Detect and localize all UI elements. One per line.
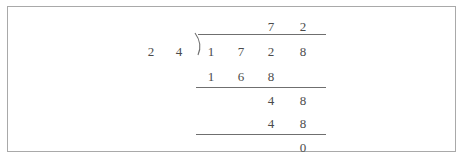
dividend-digit-4: 8 [296, 45, 310, 59]
vinculum-rule [198, 34, 326, 35]
dividend-digit-3: 2 [264, 45, 278, 59]
subtrahend1-digit-3: 8 [264, 70, 278, 84]
subtrahend2-digit-1: 4 [264, 117, 278, 131]
subtraction-rule-2 [196, 134, 326, 135]
figure-border: 2 4 7 2 1 7 2 8 1 6 8 4 8 4 8 0 [7, 6, 456, 152]
remainder1-digit-2: 8 [296, 94, 310, 108]
quotient-digit-1: 7 [264, 20, 278, 34]
dividend-digit-1: 1 [204, 45, 218, 59]
divisor-digit-2: 4 [172, 45, 186, 59]
subtrahend1-digit-2: 6 [234, 70, 248, 84]
subtraction-rule-1 [196, 87, 326, 88]
subtrahend1-digit-1: 1 [204, 70, 218, 84]
divisor-digit-1: 2 [144, 45, 158, 59]
subtrahend2-digit-2: 8 [296, 117, 310, 131]
long-division-problem: 2 4 7 2 1 7 2 8 1 6 8 4 8 4 8 0 [8, 7, 457, 153]
final-remainder-digit: 0 [296, 141, 310, 155]
quotient-digit-2: 2 [296, 20, 310, 34]
remainder1-digit-1: 4 [264, 94, 278, 108]
dividend-digit-2: 7 [234, 45, 248, 59]
